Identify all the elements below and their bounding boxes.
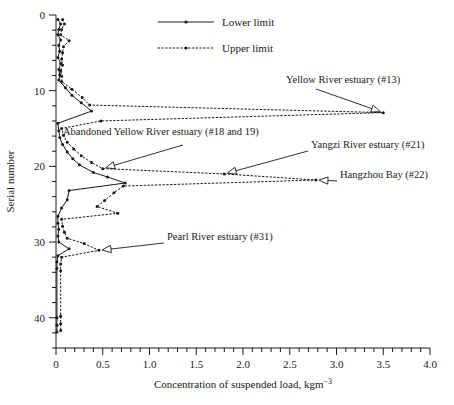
data-point [57, 228, 60, 231]
series-layer [55, 18, 384, 334]
data-point [61, 63, 64, 66]
annotation-label-hangzhou-bay: Hangzhou Bay (#22) [340, 169, 429, 181]
data-point [122, 185, 125, 188]
data-point [64, 86, 67, 89]
data-point [58, 136, 61, 139]
annotations-layer: Yellow River estuary (#13)Abandoned Yell… [63, 74, 429, 253]
x-axis-tick-label: 0.5 [96, 358, 110, 370]
data-point [101, 167, 104, 170]
x-axis-tick-label: 2.5 [283, 358, 297, 370]
data-point [57, 28, 60, 31]
data-point [68, 189, 71, 192]
data-point [92, 171, 95, 174]
data-point [59, 269, 62, 272]
data-point [63, 231, 66, 234]
data-point [66, 150, 69, 153]
data-point [96, 205, 99, 208]
x-axis-tick-label: 4.0 [423, 358, 437, 370]
data-point [57, 241, 60, 244]
legend-label-upper-limit: Upper limit [222, 42, 273, 54]
data-point [90, 110, 93, 113]
x-axis-title: Concentration of suspended load, kgm−3 [154, 377, 332, 391]
data-point [59, 38, 62, 41]
y-axis-ticks: 010203040 [34, 9, 56, 348]
data-point [60, 206, 63, 209]
data-point [70, 88, 73, 91]
data-point [66, 198, 69, 201]
data-point [116, 212, 119, 215]
data-point [223, 172, 226, 175]
annotation-leader-yangzi-river [236, 151, 308, 171]
annotation-arrowhead-hangzhou-bay [319, 177, 328, 184]
axes-layer [56, 15, 430, 348]
data-point [60, 80, 63, 83]
data-point [78, 163, 81, 166]
data-point [61, 143, 64, 146]
data-point [59, 322, 62, 325]
y-axis-tick-label: 10 [34, 85, 46, 97]
y-axis-tick-label: 20 [34, 160, 46, 172]
data-point [112, 191, 115, 194]
data-point [56, 122, 59, 125]
data-point [70, 94, 73, 97]
data-point [88, 104, 91, 107]
data-point [57, 129, 60, 132]
data-point [60, 256, 63, 259]
data-point [56, 215, 59, 218]
data-point [60, 218, 63, 221]
data-point [382, 111, 385, 114]
annotation-label-pearl-river: Pearl River estuary (#31) [167, 231, 273, 243]
annotation-arrowhead-yellow-river [371, 105, 381, 112]
data-point [83, 242, 86, 245]
data-point [106, 175, 109, 178]
y-axis-title: Serial number [4, 150, 16, 212]
y-axis-tick-label: 30 [34, 236, 46, 248]
series-line-upper-limit [61, 20, 384, 331]
data-point [90, 161, 93, 164]
x-axis-tick-label: 0 [53, 358, 59, 370]
data-point [59, 329, 62, 332]
data-point [56, 234, 59, 237]
x-axis-tick-label: 3.0 [330, 358, 344, 370]
data-point [56, 254, 59, 257]
data-point [103, 199, 106, 202]
axis-titles: Concentration of suspended load, kgm−3 S… [4, 150, 332, 390]
x-axis-tick-label: 1.5 [189, 358, 203, 370]
data-point [57, 79, 60, 82]
data-point [60, 28, 63, 31]
y-axis-tick-label: 40 [34, 312, 46, 324]
x-axis-tick-label: 2.0 [236, 358, 250, 370]
data-point [55, 267, 58, 270]
chart-legend: Lower limitUpper limit [158, 16, 274, 54]
data-point [58, 50, 61, 53]
data-point [80, 154, 83, 157]
data-point [80, 101, 83, 104]
data-point [314, 178, 317, 181]
data-point [62, 45, 65, 48]
x-axis-title-superscript: −3 [324, 377, 333, 386]
data-point [66, 141, 69, 144]
data-point [60, 75, 63, 78]
data-point [59, 315, 62, 318]
data-point [63, 23, 66, 26]
data-point [59, 70, 62, 73]
x-axis-ticks: 00.51.01.52.02.53.03.54.0 [53, 348, 437, 370]
data-point [55, 316, 58, 319]
data-point [71, 157, 74, 160]
data-point [61, 51, 64, 54]
annotation-label-yangzi-river: Yangzi River estuary (#21) [311, 139, 425, 151]
data-point [124, 182, 127, 185]
data-point [66, 237, 69, 240]
legend-marker [184, 46, 187, 49]
data-point [57, 44, 60, 47]
data-point [59, 262, 62, 265]
data-point [56, 56, 59, 59]
series-line-lower-limit [57, 20, 125, 333]
legend-label-lower-limit: Lower limit [222, 16, 274, 28]
annotation-leader-yellow-river [316, 89, 372, 109]
data-point [99, 119, 102, 122]
annotation-arrowhead-abandoned-yellow-river [106, 162, 116, 169]
annotation-arrowhead-yangzi-river [227, 167, 237, 174]
data-point [59, 23, 62, 26]
data-point [98, 249, 101, 252]
